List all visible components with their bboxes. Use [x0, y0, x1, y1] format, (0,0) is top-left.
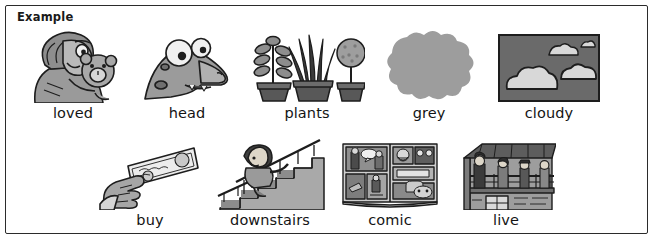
- open-comic-book-illustration: [340, 140, 440, 210]
- hand-holding-banknote-illustration: [98, 138, 202, 210]
- picture-card-loved[interactable]: loved: [16, 27, 130, 121]
- picture-row-2: buy: [6, 138, 647, 228]
- example-panel: Example: [5, 5, 648, 234]
- section-label-example: Example: [17, 10, 73, 24]
- picture-caption: downstairs: [230, 212, 310, 228]
- picture-card-downstairs[interactable]: downstairs: [208, 138, 332, 228]
- three-potted-plants-illustration: [249, 27, 365, 103]
- cartoon-dinosaur-head-illustration: [137, 27, 237, 103]
- person-walking-down-staircase-illustration: [214, 138, 326, 210]
- picture-caption: live: [493, 212, 519, 228]
- picture-card-buy[interactable]: buy: [92, 138, 208, 228]
- picture-caption: loved: [53, 105, 93, 121]
- grey-blob-swatch-illustration: [379, 27, 479, 103]
- picture-caption: buy: [136, 212, 163, 228]
- picture-caption: plants: [284, 105, 329, 121]
- picture-card-comic[interactable]: comic: [332, 140, 448, 228]
- clouds-in-grey-sky-illustration: [497, 31, 601, 103]
- person-hugging-teddy-bear-illustration: [23, 27, 123, 103]
- picture-caption: comic: [368, 212, 411, 228]
- picture-card-cloudy[interactable]: cloudy: [488, 31, 610, 121]
- picture-card-head[interactable]: head: [130, 27, 244, 121]
- picture-caption: cloudy: [525, 105, 573, 121]
- picture-caption: head: [169, 105, 206, 121]
- picture-caption: grey: [413, 105, 446, 121]
- picture-card-live[interactable]: live: [448, 140, 564, 228]
- picture-card-plants[interactable]: plants: [244, 27, 370, 121]
- picture-card-grey[interactable]: grey: [370, 27, 488, 121]
- people-on-house-balcony-illustration: [456, 140, 556, 210]
- picture-row-1: loved: [6, 27, 647, 121]
